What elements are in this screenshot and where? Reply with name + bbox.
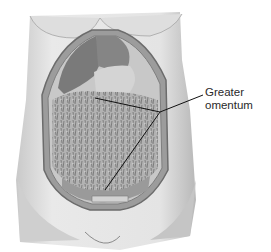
label-line-2: omentum [205, 99, 253, 112]
label-line-1: Greater [205, 86, 253, 99]
anatomy-illustration [0, 0, 271, 252]
greater-omentum-label: Greater omentum [205, 86, 253, 112]
